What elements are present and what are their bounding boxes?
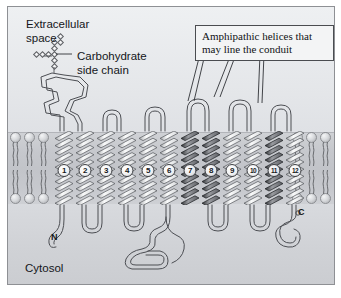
lipid-molecule-outer-leaflet [319,132,332,166]
transmembrane-helix-3: 3 [97,131,115,205]
lipid-tail [39,170,48,194]
lipid-tail [11,142,20,166]
transmembrane-helix-7: 7 [181,131,199,205]
lipid-head-group [320,193,331,204]
label-carbohydrate-line-2: side chain [77,64,147,78]
lipid-tail [321,170,330,194]
lipid-tail [25,142,34,166]
helix-number-badge: 5 [142,164,155,177]
transmembrane-helix-10: 10 [244,131,262,205]
transmembrane-helix-12: 12 [286,131,304,205]
helix-number-badge: 2 [79,164,92,177]
figure-root: 123456789101112 [0,0,341,298]
lipid-molecule-inner-leaflet [37,170,50,204]
transmembrane-helix-8: 8 [202,131,220,205]
lipid-head-group [306,193,317,204]
lipid-head-group [24,193,35,204]
transmembrane-helix-4: 4 [118,131,136,205]
callout-line-2: may line the conduit [202,43,328,56]
label-carbohydrate-side-chain: Carbohydrate side chain [77,50,147,77]
label-extracellular-line-2: space [26,32,89,46]
label-n-terminus: N [51,232,58,242]
label-carbohydrate-line-1: Carbohydrate [77,50,147,64]
callout-line-1: Amphipathic helices that [202,30,328,43]
lipid-tail [321,142,330,166]
lipid-head-group [38,193,49,204]
helix-number-badge: 4 [121,164,134,177]
lipid-molecule-outer-leaflet [9,132,22,166]
lipid-tail [307,142,316,166]
callout-amphipathic-helices: Amphipathic helices that may line the co… [195,25,334,61]
transmembrane-helix-2: 2 [76,131,94,205]
label-extracellular-line-1: Extracellular [26,18,89,32]
transmembrane-helix-5: 5 [139,131,157,205]
transmembrane-helix-1: 1 [55,131,73,205]
lipid-molecule-inner-leaflet [319,170,332,204]
lipid-molecule-outer-leaflet [23,132,36,166]
helix-number-badge: 11 [268,164,281,177]
lipid-molecule-inner-leaflet [305,170,318,204]
lipid-molecule-outer-leaflet [37,132,50,166]
lipid-tail [25,170,34,194]
label-extracellular-space: Extracellular space [26,18,89,45]
lipid-molecule-inner-leaflet [23,170,36,204]
helix-number-badge: 9 [226,164,239,177]
helix-number-badge: 1 [58,164,71,177]
lipid-tail [39,142,48,166]
label-c-terminus: C [298,207,305,217]
transmembrane-helix-11: 11 [265,131,283,205]
figure-frame: 123456789101112 [7,6,335,285]
lipid-tail [11,170,20,194]
helix-number-badge: 8 [205,164,218,177]
transmembrane-helix-6: 6 [160,131,178,205]
lipid-molecule-outer-leaflet [305,132,318,166]
lipid-head-group [10,193,21,204]
lipid-tail [307,170,316,194]
helix-number-badge: 6 [163,164,176,177]
label-cytosol: Cytosol [25,262,63,274]
helix-number-badge: 7 [184,164,197,177]
lipid-molecule-inner-leaflet [9,170,22,204]
lipid-bilayer-left [8,132,52,204]
helix-number-badge: 12 [289,164,302,177]
transmembrane-helix-9: 9 [223,131,241,205]
helix-number-badge: 10 [247,164,260,177]
helix-number-badge: 3 [100,164,113,177]
